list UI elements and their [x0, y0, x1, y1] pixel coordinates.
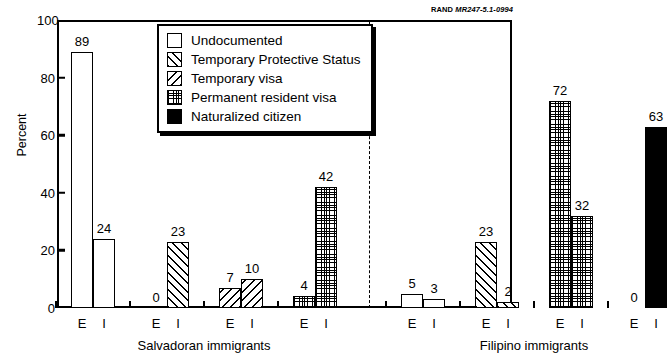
x-axis-tick-mark — [607, 301, 609, 308]
bar — [497, 302, 519, 308]
legend-item-label: Naturalized citizen — [191, 110, 301, 124]
x-axis-category-label: E — [482, 316, 491, 331]
y-axis-tick-label: 60 — [37, 128, 55, 143]
legend-swatch-icon — [167, 71, 182, 86]
x-axis-category-label: I — [250, 316, 254, 331]
legend-item: Permanent resident visa — [167, 88, 361, 107]
legend-swatch-icon — [167, 109, 182, 124]
bar-value-label: 63 — [649, 109, 663, 124]
legend-swatch-icon — [167, 52, 182, 67]
rand-org-label: RAND — [431, 5, 453, 14]
bar-value-label: 4 — [300, 278, 307, 293]
x-axis-tick-mark — [55, 301, 57, 308]
bar-value-label: 5 — [408, 276, 415, 291]
x-axis-category-label: I — [580, 316, 584, 331]
y-axis-tick-label: 40 — [37, 185, 55, 200]
bar-value-label: 32 — [575, 198, 589, 213]
y-axis-tick-label: 0 — [37, 301, 55, 316]
legend-item-label: Permanent resident visa — [191, 91, 337, 105]
rand-credit: RAND MR247-5.1-0994 — [431, 5, 513, 14]
bar-value-label: 24 — [97, 221, 111, 236]
bar — [93, 239, 115, 308]
bar-value-label: 10 — [245, 261, 259, 276]
x-axis-category-label: I — [506, 316, 510, 331]
x-axis-category-label: I — [102, 316, 106, 331]
y-axis-tick-mark — [57, 134, 65, 137]
x-axis-category-label: I — [176, 316, 180, 331]
x-axis-category-label: E — [408, 316, 417, 331]
bar — [219, 288, 241, 308]
x-axis-tick-mark — [533, 301, 535, 308]
bar-value-label: 3 — [430, 281, 437, 296]
y-axis-title: Percent — [15, 75, 29, 195]
bar — [423, 299, 445, 308]
legend-item: Temporary Protective Status — [167, 50, 361, 69]
bar — [315, 187, 337, 308]
bar-value-label: 72 — [553, 83, 567, 98]
x-axis-tick-mark — [459, 301, 461, 308]
chart-legend: UndocumentedTemporary Protective StatusT… — [157, 24, 373, 133]
x-axis-category-label: I — [432, 316, 436, 331]
bar-value-label: 2 — [504, 284, 511, 299]
bar — [571, 216, 593, 308]
legend-item: Naturalized citizen — [167, 107, 361, 126]
legend-item-label: Temporary Protective Status — [191, 53, 361, 67]
x-axis-group-label: Salvadoran immigrants — [138, 338, 271, 353]
x-axis-category-label: I — [654, 316, 658, 331]
bar-value-label: 0 — [630, 290, 637, 305]
y-axis-tick-label: 20 — [37, 243, 55, 258]
bar-value-label: 42 — [319, 169, 333, 184]
legend-item: Temporary visa — [167, 69, 361, 88]
bar — [401, 294, 423, 308]
x-axis-tick-mark — [277, 301, 279, 308]
y-axis-tick-label: 100 — [37, 13, 55, 28]
bar — [645, 127, 667, 308]
x-axis-category-label: E — [556, 316, 565, 331]
x-axis-category-label: E — [300, 316, 309, 331]
legend-swatch-icon — [167, 90, 182, 105]
x-axis-tick-mark — [129, 301, 131, 308]
y-axis-tick-mark — [57, 76, 65, 79]
bar-value-label: 0 — [152, 290, 159, 305]
legend-item-label: Undocumented — [191, 34, 283, 48]
bar — [167, 242, 189, 308]
x-axis-tick-mark — [385, 301, 387, 308]
x-axis-tick-mark — [203, 301, 205, 308]
x-axis-category-label: E — [226, 316, 235, 331]
legend-item: Undocumented — [167, 31, 361, 50]
y-axis-tick-label: 80 — [37, 70, 55, 85]
bar — [241, 279, 263, 308]
y-axis-tick-mark — [57, 249, 65, 252]
legend-swatch-icon — [167, 33, 182, 48]
bar — [475, 242, 497, 308]
x-axis-category-label: E — [152, 316, 161, 331]
bar-value-label: 23 — [479, 224, 493, 239]
rand-report-number: MR247-5.1-0994 — [455, 5, 513, 14]
x-axis-category-label: I — [324, 316, 328, 331]
bar — [549, 101, 571, 308]
x-axis-category-label: E — [78, 316, 87, 331]
y-axis-tick-mark — [57, 192, 65, 195]
bar-value-label: 89 — [75, 34, 89, 49]
x-axis-category-label: E — [630, 316, 639, 331]
bar — [71, 52, 93, 308]
bar-value-label: 23 — [171, 224, 185, 239]
bar — [293, 296, 315, 308]
bar-value-label: 7 — [226, 270, 233, 285]
legend-item-label: Temporary visa — [191, 72, 283, 86]
x-axis-group-label: Filipino immigrants — [480, 338, 588, 353]
